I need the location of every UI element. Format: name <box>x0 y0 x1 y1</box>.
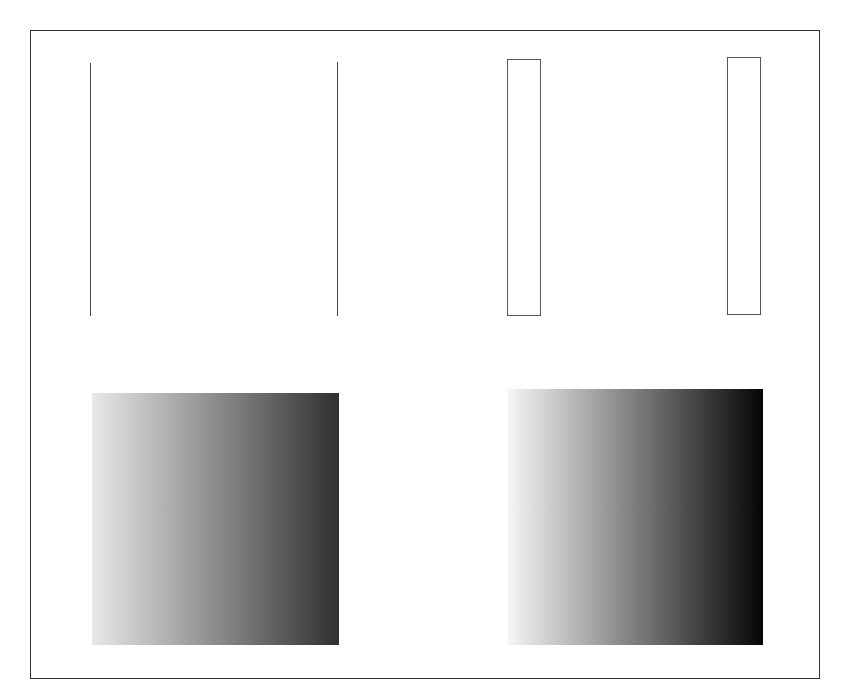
outlined-rectangle <box>727 57 761 315</box>
gradient-square-white-to-black <box>508 389 763 645</box>
gradient-square-gray <box>92 393 339 645</box>
vertical-line <box>90 63 91 316</box>
vertical-line <box>337 62 338 316</box>
outlined-rectangle <box>507 59 541 316</box>
